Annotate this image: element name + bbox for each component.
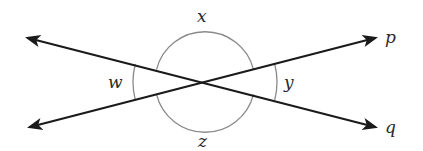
label-p: p <box>385 27 396 47</box>
label-q: q <box>385 117 396 137</box>
arc-w <box>133 64 135 100</box>
label-z: z <box>197 131 208 151</box>
intersecting-lines-diagram: x z w y p q <box>0 0 423 151</box>
label-y: y <box>283 72 294 92</box>
label-x: x <box>197 6 207 26</box>
arc-y <box>275 64 277 100</box>
arc-x <box>157 32 254 70</box>
arc-z <box>157 94 254 132</box>
label-w: w <box>108 72 123 92</box>
